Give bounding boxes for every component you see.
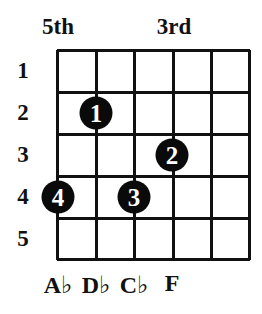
fret-number-4: 4 [17, 184, 29, 210]
note-label-d-flat: D♭ [82, 270, 111, 299]
fret-line [57, 258, 250, 261]
fret-number-3: 3 [17, 142, 29, 168]
finger-dot-2: 2 [156, 139, 189, 172]
fret-line [57, 175, 250, 178]
finger-dot-4: 4 [42, 181, 75, 214]
fret-line [57, 217, 250, 220]
string-line [133, 50, 136, 260]
string-line [210, 50, 213, 260]
finger-dot-1: 1 [80, 97, 113, 130]
interval-label-5th: 5th [42, 14, 74, 40]
string-line [95, 50, 98, 260]
fret-line [57, 133, 250, 136]
note-label-c-flat: C♭ [120, 270, 149, 299]
fretboard-grid [57, 50, 250, 260]
fret-number-2: 2 [17, 100, 29, 126]
fret-number-5: 5 [17, 226, 29, 252]
fret-line [57, 91, 250, 94]
string-line [248, 50, 251, 260]
fret-line [57, 49, 250, 52]
string-line [56, 50, 59, 260]
fret-number-1: 1 [17, 58, 29, 84]
finger-dot-3: 3 [118, 181, 151, 214]
note-label-f: F [165, 270, 180, 297]
note-label-a-flat: A♭ [44, 270, 73, 299]
interval-label-3rd: 3rd [157, 14, 192, 40]
